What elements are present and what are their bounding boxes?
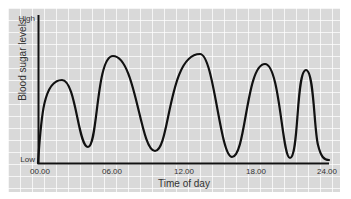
y-axis-title: Blood sugar levels: [17, 19, 28, 101]
x-axis-title: Time of day: [158, 178, 210, 189]
x-tick-3: 18.00: [246, 167, 267, 176]
x-tick-1: 06.00: [102, 167, 123, 176]
x-tick-2: 12.00: [174, 167, 195, 176]
y-low-label: Low: [20, 155, 35, 164]
x-tick-0: 00.00: [30, 167, 51, 176]
x-tick-4: 24.00: [317, 167, 338, 176]
chart-svg: High Low Blood sugar levels 00.00 06.00 …: [0, 0, 351, 199]
blood-sugar-curve: [38, 54, 329, 163]
